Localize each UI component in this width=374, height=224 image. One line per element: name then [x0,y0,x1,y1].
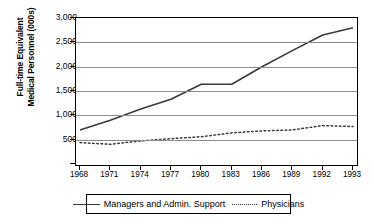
x-axis-tick-label: 1993 [334,170,370,180]
y-axis-tick-label: 3,000 [17,13,77,22]
legend-label-physicians: Physicians [261,199,304,209]
chart-figure: Full-time Equivalent Medical Personnel (… [0,0,374,224]
x-axis-tick-mark [200,166,201,170]
x-axis-tick-mark [322,166,323,170]
legend-swatch-dotted-line-icon [232,204,257,205]
grid-line [76,91,357,92]
y-axis-tick-label: 1,000 [17,110,77,119]
x-axis-tick-mark [140,166,141,170]
y-axis-tick-label: - [17,159,77,168]
y-axis-tick-label: 2,000 [17,61,77,70]
legend-label-managers-and-admin-support: Managers and Admin. Support [104,199,226,209]
grid-line [76,42,357,43]
x-axis-tick-mark [170,166,171,170]
grid-line [76,115,357,116]
plot-area [75,17,358,166]
legend-swatch-solid-line-icon [73,204,100,205]
x-axis-tick-mark [352,166,353,170]
x-axis-tick-mark [109,166,110,170]
x-axis-tick-mark [231,166,232,170]
x-axis-tick-mark [291,166,292,170]
grid-line [76,140,357,141]
y-axis-tick-label: 500 [17,134,77,143]
line-physicians [80,126,353,145]
legend-item-physicians: Physicians [232,199,304,209]
chart-legend: Managers and Admin. Support Physicians [86,194,291,214]
x-axis-tick-mark [261,166,262,170]
grid-line [76,67,357,68]
y-axis-tick-label: 2,500 [17,37,77,46]
legend-item-managers-and-admin-support: Managers and Admin. Support [73,199,226,209]
x-axis-tick-mark [79,166,80,170]
y-axis-tick-label: 1,500 [17,86,77,95]
